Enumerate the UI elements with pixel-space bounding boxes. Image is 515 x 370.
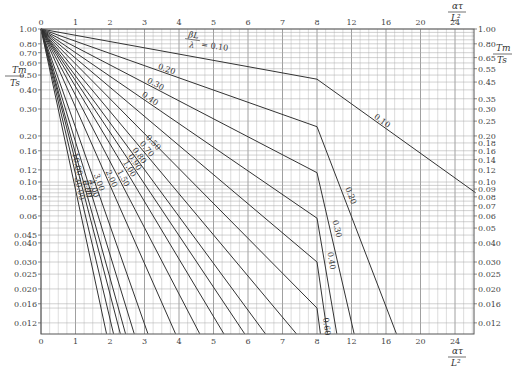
x-tick-label: 6: [245, 337, 250, 346]
y-tick-label-right: 0.06: [478, 212, 496, 221]
y-tick-label-right: 0.30: [478, 105, 496, 114]
x-tick-label: 2: [107, 337, 112, 346]
x-tick-label: 8: [314, 18, 319, 27]
y-tick-label-left: 0.016: [14, 300, 37, 309]
curve-0-90: [41, 29, 245, 334]
y-tick-label-left: 1.00: [19, 25, 37, 34]
y-tick-label-right: 0.07: [478, 202, 496, 211]
y-tick-label-left: 0.08: [19, 193, 37, 202]
y-tick-label-right: 0.55: [478, 65, 496, 74]
y-tick-label-right: 0.040: [478, 239, 501, 248]
plot-frame: [41, 29, 474, 334]
y-tick-label-left: 0.06: [19, 212, 37, 221]
y-tick-label-right: 0.025: [478, 270, 501, 279]
x-title-denominator-top: L²: [450, 13, 461, 23]
x-axis-top: 01234567812162024: [38, 18, 460, 27]
x-tick-label: 24: [450, 337, 460, 346]
x-tick-label: 16: [381, 18, 391, 27]
x-tick-label: 16: [381, 337, 391, 346]
y-tick-label-left: 0.040: [14, 239, 37, 248]
x-tick-label: 20: [415, 337, 425, 346]
y-tick-label-left: 0.80: [19, 40, 37, 49]
y-tick-label-right: 0.14: [478, 156, 496, 165]
x-tick-label: 1: [73, 337, 78, 346]
curve-0-10: [41, 29, 476, 193]
y-tick-label-right: 0.12: [478, 166, 496, 175]
y-tick-label-left: 0.70: [19, 49, 37, 58]
x-tick-label: 0: [38, 18, 43, 27]
y-title-denominator: Ts: [10, 78, 20, 88]
y-tick-label-left: 0.16: [19, 147, 37, 156]
y-tick-label-right: 0.08: [478, 193, 496, 202]
x-tick-label: 20: [415, 18, 425, 27]
y-tick-label-right: 0.012: [478, 319, 501, 328]
x-axis-title-top: ατ L²: [448, 1, 466, 23]
x-axis-bottom: 01234567812162024: [38, 337, 460, 346]
y-tick-label-left: 0.012: [14, 319, 37, 328]
y-tick-label-left: 0.030: [14, 258, 37, 267]
y-axis-right: 1.000.800.650.550.450.350.300.250.200.18…: [474, 25, 501, 328]
x-tick-label: 0: [38, 337, 43, 346]
y-title-denominator-right: Ts: [497, 55, 507, 65]
x-title-numerator-bottom: ατ: [452, 346, 464, 356]
y-tick-label-left: 0.20: [19, 132, 37, 141]
y-tick-label-right: 1.00: [478, 25, 496, 34]
y-tick-label-left: 0.40: [19, 86, 37, 95]
y-tick-label-right: 0.65: [478, 54, 496, 63]
curves: [41, 29, 476, 334]
x-tick-label: 7: [280, 337, 285, 346]
x-tick-label: 8: [314, 337, 319, 346]
param-denominator: λ: [188, 40, 195, 50]
x-tick-label: 5: [211, 337, 216, 346]
y-tick-label-right: 0.25: [478, 117, 496, 126]
y-tick-label-left: 0.30: [19, 105, 37, 114]
y-title-numerator-right: Tm: [496, 43, 511, 53]
y-tick-label-left: 0.020: [14, 285, 37, 294]
y-tick-label-right: 0.16: [478, 147, 496, 156]
curve-label: 0.40: [325, 251, 337, 270]
y-tick-label-right: 0.35: [478, 95, 496, 104]
y-tick-label-right: 0.45: [478, 78, 496, 87]
curve-label: 0.20: [157, 62, 177, 76]
grid: [41, 29, 474, 334]
y-tick-label-left: 0.025: [14, 270, 37, 279]
x-tick-label: 12: [346, 18, 356, 27]
x-axis-title-bottom: ατ L²: [448, 346, 466, 368]
curve-label: 0.30: [331, 219, 344, 238]
x-tick-label: 7: [280, 18, 285, 27]
x-tick-label: 1: [73, 18, 78, 27]
curve-label: 0.60: [321, 317, 332, 336]
x-tick-label: 3: [142, 337, 147, 346]
x-title-denominator-bottom: L²: [450, 358, 461, 368]
curve-label: 0.10: [372, 112, 392, 130]
x-tick-label: 3: [142, 18, 147, 27]
x-tick-label: 4: [176, 337, 181, 346]
y-tick-label-right: 0.016: [478, 300, 501, 309]
y-title-numerator: Tm: [12, 65, 27, 75]
y-tick-label-right: 0.05: [478, 224, 496, 233]
x-tick-label: 12: [346, 337, 356, 346]
x-tick-label: 4: [176, 18, 181, 27]
y-axis-title-right: Tm Ts: [493, 43, 512, 65]
curve-label: 0.40: [140, 90, 160, 107]
y-tick-label-left: 0.12: [19, 166, 37, 175]
y-tick-label-right: 0.020: [478, 285, 501, 294]
parameter-annotation: βL λ = 0.10: [184, 30, 230, 55]
chart: 01234567812162024 01234567812162024 1.00…: [0, 0, 515, 370]
y-tick-label-right: 0.030: [478, 258, 501, 267]
x-title-numerator-top: ατ: [452, 1, 464, 11]
curve-label: 0.20: [343, 186, 358, 206]
y-tick-label-right: 0.80: [478, 40, 496, 49]
y-tick-label-left: 0.10: [19, 178, 37, 187]
x-tick-label: 2: [107, 18, 112, 27]
x-tick-label: 5: [211, 18, 216, 27]
x-tick-label: 6: [245, 18, 250, 27]
